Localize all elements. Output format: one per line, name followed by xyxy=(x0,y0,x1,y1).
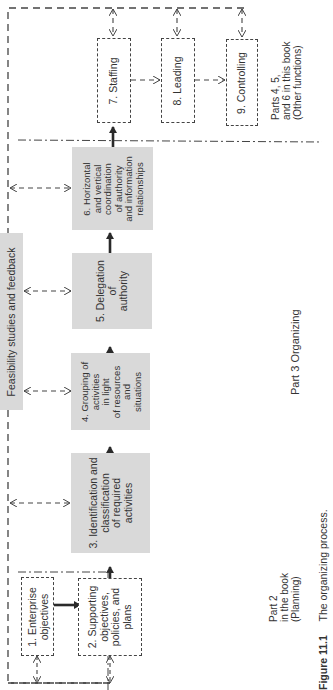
box-line: 5. Delegation xyxy=(95,260,107,322)
box-line: classification xyxy=(99,457,111,548)
label-line: and 6 in this book xyxy=(281,42,292,120)
box-line: 1. Enterprise xyxy=(26,587,38,647)
box-line: policies, and xyxy=(110,586,122,648)
box-delegation-authority: 5. Delegation of authority xyxy=(72,253,152,329)
box-grouping-activities: 4. Grouping of activities in light of re… xyxy=(71,353,150,430)
feedback-box: Feasibility studies and feedback xyxy=(0,233,23,410)
figure-number: Figure 11.1 xyxy=(317,635,329,690)
box-line: 8. Leading xyxy=(172,56,184,105)
box-line: 9. Controlling xyxy=(236,52,248,114)
box-line: 3. Identification and xyxy=(88,457,100,548)
label-part3-organizing: Part 3 Organizing xyxy=(290,309,301,395)
box-line: objectives xyxy=(38,587,50,647)
box-line: plans xyxy=(122,586,134,648)
box-line: and xyxy=(121,361,132,421)
box-coordination-authority: 6. Horizontal and vertical coordination … xyxy=(72,147,153,230)
box-line: and information xyxy=(123,156,134,221)
box-line: activities xyxy=(90,361,101,421)
label-line: (Planning) xyxy=(290,573,301,622)
box-line: 7. Staffing xyxy=(108,57,120,104)
box-line: of resources xyxy=(111,361,122,421)
figure-caption: Figure 11.1 The organizing process. xyxy=(318,509,329,690)
box-line: 2. Supporting xyxy=(87,586,99,648)
box-line: relationships xyxy=(134,156,145,221)
box-line: authority xyxy=(118,260,130,322)
figure-title: The organizing process. xyxy=(317,509,329,621)
divider-organizing-other xyxy=(18,140,322,142)
feedback-box-label: Feasibility studies and feedback xyxy=(6,247,18,396)
box-line: situations xyxy=(132,361,143,421)
label-part2-planning: Part 2 in the book (Planning) xyxy=(268,573,301,622)
box-line: of required xyxy=(111,457,123,548)
box-leading: 8. Leading xyxy=(161,38,195,123)
box-staffing: 7. Staffing xyxy=(97,38,131,123)
box-line: in light xyxy=(100,361,111,421)
label-line: Part 3 Organizing xyxy=(290,309,301,395)
label-line: Parts 4, 5, xyxy=(270,42,281,120)
box-supporting-objectives: 2. Supporting objectives, policies, and … xyxy=(78,578,142,656)
label-parts-4-5-6: Parts 4, 5, and 6 in this book (Other fu… xyxy=(270,42,303,120)
box-identification-activities: 3. Identification and classification of … xyxy=(71,453,150,553)
box-line: coordination xyxy=(102,156,113,221)
box-controlling: 9. Controlling xyxy=(226,39,258,126)
box-line: 6. Horizontal xyxy=(81,156,92,221)
box-line: and vertical xyxy=(92,156,103,221)
box-line: activities xyxy=(122,457,134,548)
label-line: (Other functions) xyxy=(292,42,303,120)
box-line: of authority xyxy=(113,156,124,221)
box-line: 4. Grouping of xyxy=(79,361,90,421)
label-line: in the book xyxy=(279,573,290,622)
box-enterprise-objectives: 1. Enterprise objectives xyxy=(21,577,54,656)
label-line: Part 2 xyxy=(268,573,279,622)
